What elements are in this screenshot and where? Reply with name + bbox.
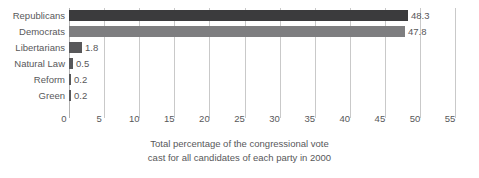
- bar-row: Natural Law0.5: [0, 56, 479, 72]
- x-tick-label-50: 50: [410, 112, 421, 126]
- x-axis: 0510152025303540455055: [0, 112, 479, 130]
- bar-value-label: 0.2: [74, 72, 87, 88]
- category-label: Republicans: [0, 8, 65, 24]
- x-tick-label-5: 5: [96, 112, 101, 126]
- bar-republicans: [69, 10, 408, 21]
- chart-caption: Total percentage of the congressional vo…: [0, 137, 479, 164]
- bar-value-label: 0.5: [76, 56, 89, 72]
- x-tick-label-40: 40: [340, 112, 351, 126]
- x-tick-label-55: 55: [445, 112, 456, 126]
- bar-row: Reform0.2: [0, 72, 479, 88]
- x-tick-label-0: 0: [61, 112, 66, 126]
- x-tick-label-10: 10: [129, 112, 140, 126]
- category-label: Green: [0, 88, 65, 104]
- category-label: Libertarians: [0, 40, 65, 56]
- x-tick-label-25: 25: [234, 112, 245, 126]
- bar-row: Democrats47.8: [0, 24, 479, 40]
- bar-row: Republicans48.3: [0, 8, 479, 24]
- bar-chart-figure: Republicans48.3Democrats47.8Libertarians…: [0, 0, 479, 178]
- x-tick-label-45: 45: [375, 112, 386, 126]
- caption-line-1: Total percentage of the congressional vo…: [0, 137, 479, 151]
- bar-democrats: [69, 26, 405, 37]
- x-tick-label-15: 15: [164, 112, 175, 126]
- bar-natural-law: [69, 58, 73, 69]
- bar-row: Green0.2: [0, 88, 479, 104]
- caption-line-2: cast for all candidates of each party in…: [0, 151, 479, 165]
- category-label: Reform: [0, 72, 65, 88]
- category-label: Natural Law: [0, 56, 65, 72]
- plot-area: Republicans48.3Democrats47.8Libertarians…: [0, 0, 479, 130]
- bar-row: Libertarians1.8: [0, 40, 479, 56]
- bar-value-label: 0.2: [74, 88, 87, 104]
- bar-value-label: 1.8: [85, 40, 98, 56]
- bar-green: [69, 90, 71, 101]
- bar-value-label: 48.3: [411, 8, 430, 24]
- bar-value-label: 47.8: [408, 24, 427, 40]
- bar-libertarians: [69, 42, 82, 53]
- bar-reform: [69, 74, 71, 85]
- x-tick-label-20: 20: [199, 112, 210, 126]
- category-label: Democrats: [0, 24, 65, 40]
- x-tick-label-35: 35: [304, 112, 315, 126]
- x-tick-label-30: 30: [269, 112, 280, 126]
